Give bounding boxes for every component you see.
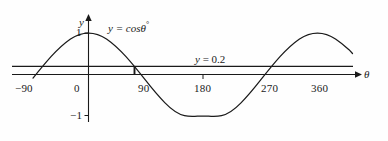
curve-equation-prefix: y = cos [108, 22, 140, 34]
x-axis-label: θ [364, 69, 369, 80]
x-tick-label-360: 360 [311, 83, 328, 94]
y-tick-label-minus-1: −1 [70, 110, 82, 121]
x-tick-label-270: 270 [261, 83, 278, 94]
x-tick-label-0: 0 [74, 83, 80, 94]
x-tick-label-minus-90: −90 [15, 83, 33, 94]
x-tick-label-180: 180 [194, 83, 211, 94]
cosine-graph-figure: y θ 1 −1 −90 0 90 180 270 360 y = cosθ° … [0, 0, 388, 141]
plot-canvas [0, 0, 388, 141]
x-tick-label-90: 90 [138, 83, 149, 94]
horizontal-line-label-value: = 0.2 [200, 53, 225, 65]
horizontal-line-label: y = 0.2 [195, 54, 225, 65]
y-tick-label-1: 1 [76, 27, 82, 38]
y-axis-arrowhead [85, 14, 91, 21]
curve-equation-degree-symbol: ° [146, 20, 149, 29]
curve-equation-label: y = cosθ° [108, 21, 149, 34]
x-axis-arrowhead [355, 71, 362, 77]
